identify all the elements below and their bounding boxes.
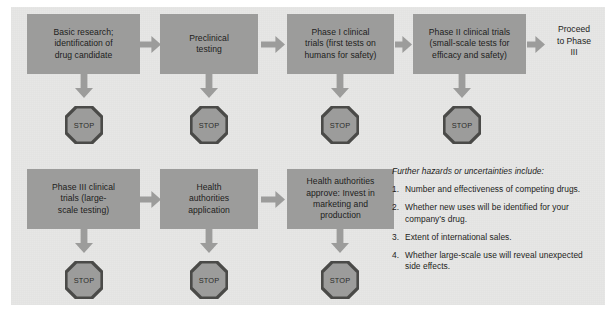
stop-sign-label: STOP	[321, 261, 359, 299]
arrow-right-4	[527, 36, 545, 53]
arrow-right-1	[140, 36, 161, 53]
arrow-down-2	[200, 74, 218, 98]
process-box-label: Health authoritiesapprove: Invest inmark…	[306, 176, 375, 221]
process-box-label: Phase I clinicaltrials (first tests onhu…	[304, 27, 376, 61]
note-item: 3. Extent of international sales.	[392, 232, 599, 243]
note-text: Whether large-scale use will reveal unex…	[405, 250, 599, 273]
process-box-label: Healthauthoritiesapplication	[188, 182, 230, 216]
further-hazards-notes: Further hazards or uncertainties include…	[392, 166, 599, 280]
process-box-phase-3[interactable]: Phase III clinicaltrials (large-scale te…	[27, 169, 140, 229]
arrow-down-1	[75, 74, 93, 98]
arrow-right-5	[140, 191, 161, 208]
note-item: 2. Whether new uses will be identified f…	[392, 202, 599, 225]
arrow-right-2	[261, 36, 285, 53]
process-box-preclinical-testing[interactable]: Preclinicaltesting	[160, 14, 258, 74]
note-text: Number and effectiveness of competing dr…	[405, 184, 599, 195]
arrow-down-7	[331, 229, 349, 253]
arrow-down-4	[453, 74, 471, 98]
arrow-right-3	[395, 36, 412, 53]
process-box-phase-1[interactable]: Phase I clinicaltrials (first tests onhu…	[287, 14, 394, 74]
process-box-health-authorities-application[interactable]: Healthauthoritiesapplication	[160, 169, 258, 229]
stop-sign-label: STOP	[65, 106, 103, 144]
note-item: 4. Whether large-scale use will reveal u…	[392, 250, 599, 273]
process-box-health-authorities-approve[interactable]: Health authoritiesapprove: Invest inmark…	[287, 169, 394, 229]
note-number: 4.	[392, 250, 405, 273]
process-box-label: Phase II clinical trials(small-scale tes…	[429, 27, 510, 61]
stop-sign-7[interactable]: STOP	[321, 261, 359, 299]
arrow-right-6	[261, 191, 285, 208]
stop-sign-label: STOP	[65, 261, 103, 299]
flowchart-root: Basic research;identification ofdrug can…	[0, 0, 613, 316]
stop-sign-5[interactable]: STOP	[65, 261, 103, 299]
note-item: 1. Number and effectiveness of competing…	[392, 184, 599, 195]
stop-sign-4[interactable]: STOP	[443, 106, 481, 144]
process-box-basic-research[interactable]: Basic research;identification ofdrug can…	[27, 14, 140, 74]
process-box-phase-2[interactable]: Phase II clinical trials(small-scale tes…	[413, 14, 526, 74]
stop-sign-label: STOP	[190, 261, 228, 299]
process-box-label: Preclinicaltesting	[189, 33, 229, 56]
stop-sign-1[interactable]: STOP	[65, 106, 103, 144]
arrow-down-5	[75, 229, 93, 253]
proceed-to-phase-3-label: Proceedto PhaseIII	[545, 24, 603, 59]
note-number: 2.	[392, 202, 405, 225]
stop-sign-label: STOP	[190, 106, 228, 144]
stop-sign-6[interactable]: STOP	[190, 261, 228, 299]
process-box-label: Basic research;identification ofdrug can…	[54, 27, 114, 61]
stop-sign-label: STOP	[443, 106, 481, 144]
process-box-label: Phase III clinicaltrials (large-scale te…	[52, 182, 115, 216]
note-number: 3.	[392, 232, 405, 243]
arrow-down-3	[331, 74, 349, 98]
stop-sign-2[interactable]: STOP	[190, 106, 228, 144]
note-text: Whether new uses will be identified for …	[405, 202, 599, 225]
stop-sign-label: STOP	[321, 106, 359, 144]
notes-heading: Further hazards or uncertainties include…	[392, 166, 599, 176]
note-text: Extent of international sales.	[405, 232, 599, 243]
note-number: 1.	[392, 184, 405, 195]
stop-sign-3[interactable]: STOP	[321, 106, 359, 144]
arrow-down-6	[200, 229, 218, 253]
